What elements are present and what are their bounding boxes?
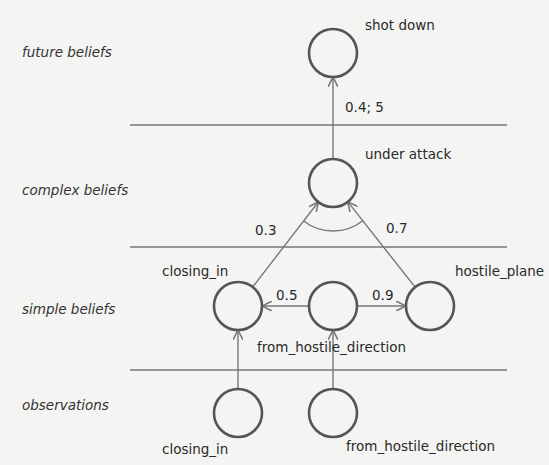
node-circle xyxy=(406,282,454,330)
node-label: closing_in xyxy=(162,263,228,279)
node-label: shot down xyxy=(365,17,435,33)
edge-closing_in_belief-to-under_attack xyxy=(253,203,318,287)
node-circle xyxy=(309,159,357,207)
layer-label-observations: observations xyxy=(22,397,109,413)
node-label: from_hostile_direction xyxy=(257,339,406,355)
node-label: under attack xyxy=(365,146,451,162)
edge-weight-label: 0.9 xyxy=(372,287,393,303)
edge-weight-label: 0.7 xyxy=(386,220,407,236)
node-closing_in_obs: closing_in xyxy=(162,389,262,457)
node-label: closing_in xyxy=(162,441,228,457)
node-from_hostile_direction_obs: from_hostile_direction xyxy=(309,389,495,454)
edge-hostile_plane-to-under_attack xyxy=(348,203,415,288)
and-conjunction-arc xyxy=(304,221,363,231)
node-under_attack: under attack xyxy=(309,146,451,207)
layer-label-simple: simple beliefs xyxy=(22,301,115,317)
layer-label-future: future beliefs xyxy=(22,44,112,60)
layer-label-complex: complex beliefs xyxy=(22,182,128,198)
node-circle xyxy=(309,389,357,437)
belief-network-diagram: 0.4; 50.30.70.50.9 shot downunder attack… xyxy=(0,0,549,465)
node-label: hostile_plane xyxy=(455,263,544,279)
edge-weight-label: 0.3 xyxy=(255,222,276,238)
edge-weight-label: 0.5 xyxy=(276,287,297,303)
node-circle xyxy=(309,29,357,77)
layer-labels: future beliefscomplex beliefssimple beli… xyxy=(22,44,128,413)
node-hostile_plane: hostile_plane xyxy=(406,263,544,330)
node-label: from_hostile_direction xyxy=(346,438,495,454)
node-circle xyxy=(309,282,357,330)
nodes: shot downunder attackclosing_infrom_host… xyxy=(162,17,544,457)
node-circle xyxy=(214,282,262,330)
node-circle xyxy=(214,389,262,437)
node-closing_in_belief: closing_in xyxy=(162,263,262,330)
edge-weight-label: 0.4; 5 xyxy=(345,99,384,115)
node-shot_down: shot down xyxy=(309,17,435,77)
